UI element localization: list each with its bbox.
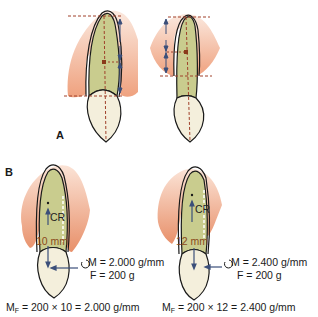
panel-label-b: B <box>5 166 13 178</box>
formula-right: MF = 200 × 12 = 2.400 g/mm <box>162 301 296 314</box>
center-of-resistance-label-left: CR <box>50 211 65 223</box>
formula-right-rest: = 200 × 12 = 2.400 g/mm <box>175 301 296 313</box>
formula-right-m: M <box>162 301 171 313</box>
panel-a-left-tooth <box>64 11 138 142</box>
panel-a-right-tooth <box>150 14 220 142</box>
formula-left-m: M <box>6 301 15 313</box>
panel-b-left-tooth <box>21 165 90 298</box>
moment-label-left: M = 2.000 g/mm <box>88 256 164 268</box>
distance-label-left: 10 mm <box>36 235 68 247</box>
crown <box>38 248 69 299</box>
distance-label-right: 12 mm <box>176 235 208 247</box>
force-label-left: F = 200 g <box>90 269 135 281</box>
crown <box>87 90 121 142</box>
panel-label-a: A <box>56 129 64 141</box>
moment-label-right: M = 2.400 g/mm <box>231 256 307 268</box>
panel-b-right-tooth <box>158 167 233 300</box>
formula-left: MF = 200 × 10 = 2.000 g/mm <box>6 301 140 314</box>
force-label-right: F = 200 g <box>237 269 282 281</box>
center-of-resistance-label-right: CR <box>195 203 210 215</box>
formula-left-rest: = 200 × 10 = 2.000 g/mm <box>19 301 140 313</box>
